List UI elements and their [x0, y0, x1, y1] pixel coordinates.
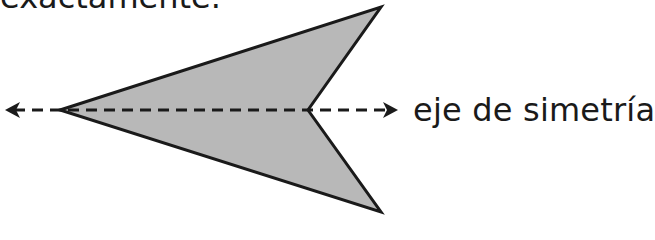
- right-arrowhead-icon: [383, 102, 398, 118]
- axis-label: eje de simetría: [413, 91, 655, 129]
